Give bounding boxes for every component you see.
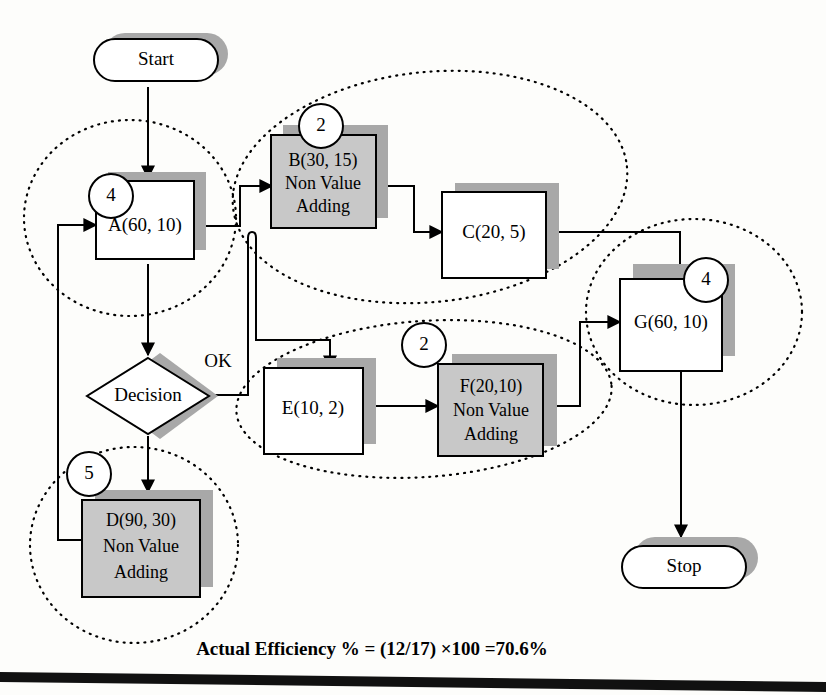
flowchart-canvas: Start A(60, 10) 4 B(30, 15) Non Value Ad…: [0, 0, 826, 695]
node-stop[interactable]: Stop: [622, 537, 758, 588]
node-decision[interactable]: Decision: [87, 353, 218, 439]
badge-ef-label: 2: [419, 333, 429, 354]
d-label-line3: Adding: [114, 562, 168, 582]
connector-a-to-b: [195, 186, 272, 226]
badge-a: 4: [89, 174, 133, 218]
node-c[interactable]: C(20, 5): [442, 183, 559, 278]
badge-ef: 2: [402, 323, 446, 367]
badge-b: 2: [299, 104, 343, 148]
diagram-page: Start A(60, 10) 4 B(30, 15) Non Value Ad…: [0, 0, 826, 695]
node-start[interactable]: Start: [94, 33, 228, 81]
badge-g: 4: [684, 258, 728, 302]
d-label-line1: D(90, 30): [106, 510, 176, 531]
node-f[interactable]: F(20,10) Non Value Adding: [438, 354, 557, 456]
start-label: Start: [138, 48, 175, 69]
b-label-line3: Adding: [296, 196, 350, 216]
node-e[interactable]: E(10, 2): [264, 358, 376, 454]
badge-d: 5: [67, 452, 111, 496]
efficiency-caption: Actual Efficiency % = (12/17) ×100 =70.6…: [196, 638, 548, 660]
decision-label: Decision: [114, 384, 182, 405]
f-label-line3: Adding: [464, 424, 518, 444]
badge-d-label: 5: [84, 462, 94, 483]
badge-g-label: 4: [701, 268, 711, 289]
a-label: A(60, 10): [108, 214, 182, 236]
node-d[interactable]: D(90, 30) Non Value Adding: [82, 490, 213, 597]
b-label-line1: B(30, 15): [289, 150, 358, 171]
badge-b-label: 2: [316, 114, 326, 135]
b-label-line2: Non Value: [285, 173, 361, 193]
stop-label: Stop: [667, 555, 702, 576]
d-label-line2: Non Value: [103, 536, 179, 556]
badge-a-label: 4: [106, 184, 116, 205]
bottom-rule: [0, 672, 826, 692]
e-label: E(10, 2): [282, 397, 344, 419]
f-label-line1: F(20,10): [460, 376, 523, 397]
g-label: G(60, 10): [634, 311, 708, 333]
c-label: C(20, 5): [462, 221, 525, 243]
f-label-line2: Non Value: [453, 400, 529, 420]
connector-b-to-c: [385, 186, 442, 232]
connector-f-to-g: [552, 322, 620, 406]
decision-ok-label: OK: [204, 350, 232, 371]
